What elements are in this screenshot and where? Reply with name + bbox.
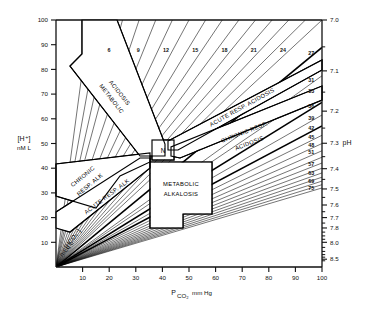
- bottom-axis-title-main: P: [171, 289, 176, 296]
- acid-base-nomogram-figure: METABOLIC ACIDOSIS ACUTE RESP. ACIDOSIS …: [0, 0, 370, 310]
- nomogram-svg: METABOLIC ACIDOSIS ACUTE RESP. ACIDOSIS …: [0, 0, 370, 310]
- isopleth-label-21: 21: [251, 47, 257, 53]
- right-tick-label-7-1: 7.1: [330, 67, 339, 74]
- left-tick-label-60: 60: [41, 115, 48, 122]
- isopleth-label-6: 6: [108, 47, 111, 53]
- right-tick-label-7-5: 7.5: [330, 185, 339, 192]
- zone-label-metabolic-alkalosis-line2: ALKALOSIS: [164, 191, 199, 197]
- left-tick-label-50: 50: [41, 140, 48, 147]
- isopleth-label-75: 75: [308, 185, 314, 191]
- left-tick-label-10: 10: [41, 239, 48, 246]
- left-tick-label-70: 70: [41, 90, 48, 97]
- isopleth-label-31: 31: [308, 77, 314, 83]
- bottom-tick-label-10: 10: [79, 274, 86, 281]
- isopleth-label-69: 69: [308, 178, 314, 184]
- left-tick-label-30: 30: [41, 189, 48, 196]
- isopleth-label-45: 45: [308, 134, 314, 140]
- isopleth-label-42: 42: [308, 125, 314, 131]
- bottom-tick-label-70: 70: [239, 274, 246, 281]
- right-tick-label-7-4: 7.4: [330, 165, 339, 172]
- bottom-tick-label-90: 90: [292, 274, 299, 281]
- isopleth-label-51: 51: [308, 149, 314, 155]
- left-tick-label-90: 90: [41, 41, 48, 48]
- isopleth-label-57: 57: [308, 161, 314, 167]
- zone-label-normal: N: [161, 147, 166, 154]
- right-tick-label-7-6: 7.6: [330, 201, 339, 208]
- left-tick-label-80: 80: [41, 66, 48, 73]
- bottom-axis-title-sub: CO₂: [177, 292, 189, 299]
- bottom-tick-label-80: 80: [265, 274, 272, 281]
- right-tick-label-8-0: 8.0: [330, 239, 339, 246]
- isopleth-label-27: 27: [308, 50, 314, 56]
- left-tick-label-40: 40: [41, 164, 48, 171]
- bottom-tick-label-30: 30: [132, 274, 139, 281]
- left-tick-label-100: 100: [38, 16, 49, 23]
- right-tick-label-7-3: 7.3: [330, 139, 339, 146]
- bottom-tick-label-100: 100: [317, 274, 328, 281]
- bottom-tick-label-20: 20: [106, 274, 113, 281]
- isopleth-label-33: 33: [308, 88, 314, 94]
- left-axis-title-main: [H⁺]: [18, 135, 31, 143]
- isopleth-label-18: 18: [222, 47, 228, 53]
- right-tick-label-7-7: 7.7: [330, 214, 339, 221]
- right-axis-title: pH: [343, 139, 352, 147]
- bottom-tick-label-40: 40: [159, 274, 166, 281]
- isopleth-label-36: 36: [308, 103, 314, 109]
- right-tick-label-7-2: 7.2: [330, 107, 339, 114]
- left-axis-title-sub: nM L: [17, 144, 31, 151]
- right-tick-label-7-0: 7.0: [330, 16, 339, 23]
- right-tick-label-7-8: 7.8: [330, 224, 339, 231]
- isopleth-label-39: 39: [308, 115, 314, 121]
- isopleth-label-48: 48: [308, 142, 314, 148]
- zone-label-metabolic-alkalosis-line1: METABOLIC: [163, 181, 199, 187]
- isopleth-label-63: 63: [308, 170, 314, 176]
- isopleth-label-9: 9: [137, 47, 140, 53]
- isopleth-label-12: 12: [163, 47, 169, 53]
- isopleth-label-15: 15: [192, 47, 198, 53]
- bottom-tick-label-60: 60: [212, 274, 219, 281]
- left-tick-label-20: 20: [41, 214, 48, 221]
- bottom-tick-label-50: 50: [186, 274, 193, 281]
- bottom-axis-title-unit: mm Hg: [192, 289, 212, 296]
- right-tick-label-8-5: 8.5: [330, 255, 339, 262]
- isopleth-label-24: 24: [280, 47, 286, 53]
